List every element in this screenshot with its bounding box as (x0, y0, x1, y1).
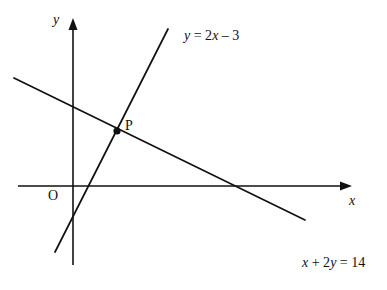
point-p-label: P (125, 119, 133, 133)
y-axis-label: y (53, 13, 59, 27)
y-axis (69, 18, 78, 265)
line-y-equals-2x-minus-3 (55, 29, 168, 252)
intersection-point-marker (113, 127, 120, 134)
x-axis-label: x (349, 194, 355, 208)
equation-label-line2: x + 2y = 14 (302, 256, 365, 270)
y-axis-arrow-icon (69, 18, 78, 30)
x-axis-arrow-icon (340, 182, 352, 191)
equation-label-line1: y = 2x – 3 (184, 29, 239, 43)
origin-label: O (48, 189, 58, 203)
graph-canvas (0, 0, 387, 290)
graph-figure: y x O P y = 2x – 3 x + 2y = 14 (0, 0, 387, 290)
x-axis (18, 182, 352, 191)
